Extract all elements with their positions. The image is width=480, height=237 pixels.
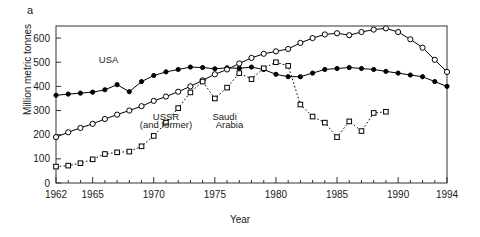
data-point-marker [53, 135, 58, 140]
data-point-marker [335, 66, 339, 70]
data-point-marker [139, 144, 144, 149]
data-point-marker [384, 109, 389, 114]
plot-frame [56, 26, 447, 183]
series-annotation: Arabia [216, 119, 244, 130]
x-axis-tick-label: 1980 [265, 189, 288, 200]
data-point-marker [298, 75, 302, 79]
data-point-marker [212, 72, 217, 77]
series-annotation: USA [99, 54, 119, 65]
data-point-marker [127, 90, 131, 94]
data-point-marker [66, 163, 71, 168]
data-point-marker [164, 70, 168, 74]
data-point-marker [286, 75, 290, 79]
data-point-marker [249, 65, 253, 69]
y-axis-tick-label: 600 [33, 33, 50, 44]
data-point-marker [163, 94, 168, 99]
y-axis-tick-label: 0 [44, 178, 50, 189]
data-point-marker [273, 49, 278, 54]
data-point-marker [176, 89, 181, 94]
data-point-marker [224, 67, 229, 72]
data-point-marker [188, 84, 193, 89]
data-point-marker [310, 35, 315, 40]
series-line [56, 28, 447, 137]
data-point-marker [408, 37, 413, 42]
data-point-marker [237, 66, 241, 70]
data-point-marker [396, 29, 401, 34]
data-point-marker [78, 91, 82, 95]
data-point-marker [408, 73, 412, 77]
data-point-marker [151, 134, 156, 139]
y-axis-tick-label: 500 [33, 57, 50, 68]
data-point-marker [201, 65, 205, 69]
x-axis-tick-label: 1990 [387, 189, 410, 200]
data-point-marker [420, 75, 424, 79]
data-point-marker [213, 96, 218, 101]
data-point-marker [310, 71, 314, 75]
data-point-marker [298, 102, 303, 107]
y-axis-tick-label: 200 [33, 129, 50, 140]
y-axis-tick-label: 300 [33, 105, 50, 116]
data-point-marker [139, 79, 143, 83]
data-point-marker [237, 61, 242, 66]
data-point-marker [286, 64, 291, 69]
data-point-marker [274, 72, 278, 76]
data-point-marker [444, 69, 449, 74]
data-point-marker [359, 129, 364, 134]
data-point-marker [78, 161, 83, 166]
data-point-marker [115, 150, 120, 155]
data-point-marker [114, 112, 119, 117]
data-point-marker [102, 116, 107, 121]
x-axis-tick-label: 1975 [204, 189, 227, 200]
data-point-marker [90, 121, 95, 126]
data-point-marker [432, 57, 437, 62]
data-point-marker [347, 33, 352, 38]
data-point-marker [445, 84, 449, 88]
data-point-marker [66, 92, 70, 96]
x-axis-tick-label: 1970 [143, 189, 166, 200]
chart-plot-area: 0100200300400500600196219651970197519801… [0, 0, 480, 237]
data-point-marker [127, 149, 132, 154]
data-point-marker [298, 40, 303, 45]
data-point-marker [249, 77, 254, 82]
data-point-marker [322, 32, 327, 37]
data-point-marker [347, 119, 352, 124]
data-point-marker [383, 26, 388, 31]
data-point-marker [286, 46, 291, 51]
series-annotation: (and former) [140, 119, 192, 130]
x-axis-tick-label: 1985 [326, 189, 349, 200]
data-point-marker [103, 152, 108, 157]
data-point-marker [335, 135, 340, 140]
data-point-marker [334, 31, 339, 36]
data-point-marker [54, 164, 59, 169]
data-point-marker [188, 65, 192, 69]
data-point-marker [213, 67, 217, 71]
x-axis-tick-label: 1994 [436, 189, 459, 200]
data-point-marker [115, 83, 119, 87]
data-point-marker [323, 67, 327, 71]
x-axis-tick-label: 1962 [45, 189, 68, 200]
data-point-marker [90, 157, 95, 162]
data-point-marker [139, 104, 144, 109]
data-point-marker [310, 114, 315, 119]
data-point-marker [54, 93, 58, 97]
y-axis-tick-label: 400 [33, 81, 50, 92]
data-point-marker [78, 125, 83, 130]
data-point-marker [371, 111, 376, 116]
data-point-marker [176, 67, 180, 71]
data-point-marker [200, 79, 205, 84]
data-point-marker [66, 130, 71, 135]
data-point-marker [127, 108, 132, 113]
data-point-marker [359, 29, 364, 34]
data-point-marker [274, 60, 279, 65]
chart-figure: a Million metric tonnes Year 01002003004… [0, 0, 480, 237]
data-point-marker [91, 90, 95, 94]
data-point-marker [347, 65, 351, 69]
data-point-marker [371, 27, 376, 32]
data-point-marker [372, 67, 376, 71]
data-point-marker [237, 71, 242, 76]
data-point-marker [188, 90, 193, 95]
data-point-marker [151, 98, 156, 103]
data-point-marker [420, 45, 425, 50]
y-axis-tick-label: 100 [33, 153, 50, 164]
data-point-marker [261, 51, 266, 56]
